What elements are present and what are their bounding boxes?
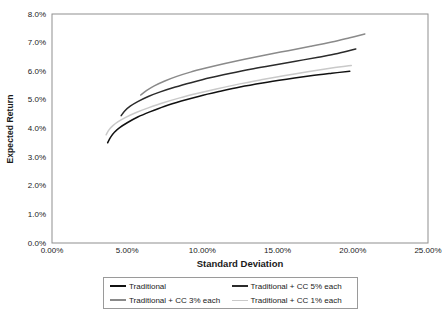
y-tick-label: 6.0% [2, 67, 46, 76]
chart-legend: TraditionalTraditional + CC 5% eachTradi… [103, 277, 358, 309]
legend-line-icon [110, 299, 126, 301]
x-tick-label: 5.00% [92, 246, 162, 255]
y-tick-label: 8.0% [2, 10, 46, 19]
x-tick-label: 0.00% [17, 246, 87, 255]
y-tick-label: 1.0% [2, 210, 46, 219]
legend-line-icon [232, 300, 248, 301]
chart-container: Expected Return 0.0%1.0%2.0%3.0%4.0%5.0%… [0, 0, 445, 320]
plot-frame [52, 14, 428, 243]
legend-item[interactable]: Traditional + CC 5% each [232, 282, 354, 291]
x-tick-label: 10.00% [167, 246, 237, 255]
y-tick-label: 2.0% [2, 181, 46, 190]
legend-line-icon [110, 285, 126, 287]
y-tick-label: 4.0% [2, 124, 46, 133]
x-tick-label: 25.00% [393, 246, 445, 255]
legend-label: Traditional + CC 5% each [251, 282, 342, 291]
legend-label: Traditional + CC 3% each [129, 296, 220, 305]
legend-item[interactable]: Traditional + CC 1% each [232, 296, 354, 305]
chart-plot-area [0, 0, 445, 320]
legend-item[interactable]: Traditional [110, 282, 232, 291]
y-tick-label: 3.0% [2, 153, 46, 162]
y-tick-label: 5.0% [2, 95, 46, 104]
y-tick-label: 7.0% [2, 38, 46, 47]
x-tick-label: 20.00% [318, 246, 388, 255]
legend-label: Traditional + CC 1% each [251, 296, 342, 305]
x-tick-label: 15.00% [243, 246, 313, 255]
legend-line-icon [232, 285, 248, 287]
x-axis-title: Standard Deviation [52, 258, 428, 269]
legend-label: Traditional [129, 282, 166, 291]
legend-item[interactable]: Traditional + CC 3% each [110, 296, 232, 305]
